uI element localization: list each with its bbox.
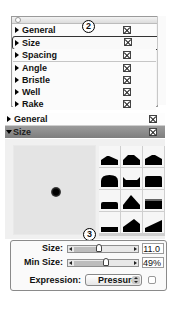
expression-invert-checkbox[interactable] <box>148 276 156 284</box>
list-item-label: Size <box>22 37 40 49</box>
enable-checkbox-icon[interactable] <box>123 51 131 59</box>
min-size-slider[interactable] <box>67 259 139 267</box>
disclosure-triangle-expanded-icon[interactable] <box>6 130 12 134</box>
tip-shape-flat-round[interactable] <box>143 168 164 189</box>
expression-selected-value: Pressure <box>98 275 137 286</box>
enable-checkbox-icon[interactable] <box>123 100 131 108</box>
section-header-size[interactable]: Size <box>5 126 165 138</box>
tip-shape-ramp-steep[interactable] <box>121 212 142 233</box>
slider-decrement-icon[interactable] <box>69 261 72 265</box>
disclosure-triangle-icon[interactable] <box>15 89 19 95</box>
list-item-label: General <box>22 24 56 36</box>
enable-checkbox-icon[interactable] <box>123 88 131 96</box>
callout-number-2: 2 <box>82 20 95 33</box>
slider-thumb[interactable] <box>103 258 109 266</box>
tip-shape-round[interactable] <box>99 168 120 189</box>
tip-shape-low-flat[interactable] <box>99 190 120 211</box>
expression-label: Expression: <box>15 275 81 285</box>
expression-select[interactable]: Pressure <box>85 274 142 286</box>
disclosure-triangle-icon[interactable] <box>15 40 19 46</box>
tip-shape-peak-tall[interactable] <box>121 190 142 211</box>
tip-shape-flat-soft[interactable] <box>143 190 164 211</box>
brush-dot-preview <box>51 187 61 197</box>
enable-checkbox-icon[interactable] <box>123 76 131 84</box>
enable-checkbox-icon[interactable] <box>123 26 131 34</box>
select-stepper-icon[interactable] <box>132 276 140 284</box>
brush-tip-shape-grid <box>99 146 165 236</box>
tip-shape-peak-1[interactable] <box>99 146 120 167</box>
slider-increment-icon[interactable] <box>134 261 137 265</box>
tip-shape-peak-3[interactable] <box>143 146 164 167</box>
list-item-spacing[interactable]: Spacing <box>13 49 156 62</box>
section-label: General <box>14 113 48 125</box>
min-size-value-field[interactable]: 49% <box>142 257 164 268</box>
list-item-label: Well <box>22 86 40 98</box>
list-item-label: Bristle <box>22 74 50 86</box>
list-item-label: Spacing <box>22 49 57 61</box>
size-slider[interactable] <box>67 245 139 253</box>
disclosure-triangle-icon[interactable] <box>15 101 19 107</box>
slider-decrement-icon[interactable] <box>69 247 72 251</box>
slider-thumb[interactable] <box>96 244 102 252</box>
list-item-label: Angle <box>22 62 47 74</box>
size-label: Size: <box>15 243 63 253</box>
enable-checkbox-icon[interactable] <box>149 128 157 136</box>
slider-increment-icon[interactable] <box>134 247 137 251</box>
tip-shape-peak-2[interactable] <box>121 146 142 167</box>
list-item-size[interactable]: Size <box>12 36 161 50</box>
section-header-general[interactable]: General <box>5 113 165 126</box>
section-label: Size <box>13 126 31 138</box>
min-size-label: Min Size: <box>15 257 63 267</box>
list-item-rake[interactable]: Rake <box>13 98 156 110</box>
close-icon[interactable] <box>15 17 21 23</box>
tip-shape-notched[interactable] <box>121 168 142 189</box>
size-controls-group: Size: 11.0 Min Size: 49% Expression: Pre… <box>10 240 167 291</box>
disclosure-triangle-icon[interactable] <box>15 27 19 33</box>
list-scrollbar[interactable] <box>157 16 166 105</box>
enable-checkbox-icon[interactable] <box>124 38 132 46</box>
list-item-label: Rake <box>22 98 44 110</box>
tip-shape-ramp-shallow[interactable] <box>143 212 164 233</box>
disclosure-triangle-icon[interactable] <box>15 65 19 71</box>
disclosure-triangle-icon[interactable] <box>15 77 19 83</box>
tip-shape-thin-flat[interactable] <box>99 212 120 233</box>
enable-checkbox-icon[interactable] <box>149 115 157 123</box>
disclosure-triangle-icon[interactable] <box>15 52 19 58</box>
disclosure-triangle-icon[interactable] <box>7 116 11 122</box>
brush-preview <box>13 145 96 235</box>
enable-checkbox-icon[interactable] <box>123 64 131 72</box>
size-value-field[interactable]: 11.0 <box>142 243 164 254</box>
